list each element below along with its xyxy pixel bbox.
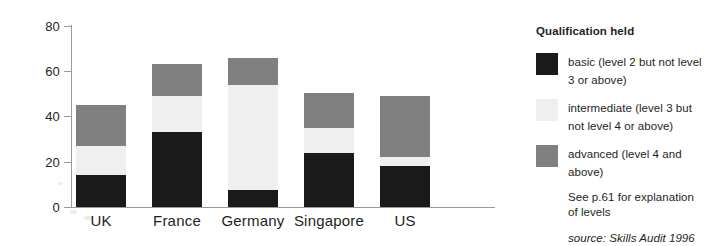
bar-segment-intermediate-uk — [76, 146, 126, 175]
y-tick-label-60: 60 — [26, 65, 60, 78]
legend-source: source: Skills Audit 1996 — [536, 231, 704, 246]
bar-segment-basic-singapore — [304, 153, 354, 207]
legend-item-basic: basic (level 2 but not level 3 or above) — [536, 52, 704, 88]
y-tick-40 — [64, 116, 72, 117]
bar-germany — [228, 26, 278, 207]
bar-segment-intermediate-singapore — [304, 128, 354, 153]
basic-swatch-icon — [536, 53, 558, 75]
legend-item-advanced: advanced (level 4 and above) — [536, 144, 704, 180]
bar-segment-advanced-singapore — [304, 93, 354, 128]
bar-us — [380, 26, 430, 207]
legend: Qualification held basic (level 2 but no… — [536, 24, 704, 246]
bar-segment-advanced-france — [152, 64, 202, 96]
bar-segment-advanced-germany — [228, 58, 278, 85]
bar-segment-intermediate-france — [152, 96, 202, 132]
legend-item-advanced-label: advanced (level 4 and above) — [568, 148, 682, 178]
y-tick-60 — [64, 71, 72, 72]
bar-segment-advanced-us — [380, 96, 430, 157]
bar-segment-intermediate-us — [380, 157, 430, 166]
legend-item-intermediate-label: intermediate (level 3 but not level 4 or… — [568, 102, 692, 132]
bar-segment-intermediate-germany — [228, 85, 278, 190]
bar-segment-advanced-uk — [76, 105, 126, 146]
legend-item-basic-label: basic (level 2 but not level 3 or above) — [568, 56, 702, 86]
y-tick-80 — [64, 26, 72, 27]
plot-area: 80 60 40 20 0 UK France Germany Singapor… — [0, 0, 515, 237]
y-tick-label-80: 80 — [26, 20, 60, 33]
bar-singapore — [304, 26, 354, 207]
legend-note: See p.61 for explanation of levels — [536, 190, 704, 219]
legend-item-intermediate: intermediate (level 3 but not level 4 or… — [536, 98, 704, 134]
bar-segment-basic-us — [380, 166, 430, 207]
scan-artifact — [58, 182, 63, 185]
legend-source-value: Skills Audit 1996 — [609, 232, 694, 244]
bar-uk — [76, 26, 126, 207]
y-tick-label-20: 20 — [26, 156, 60, 169]
legend-source-label: source: — [568, 232, 606, 244]
y-tick-label-40: 40 — [26, 110, 60, 123]
x-axis-label-us: US — [345, 211, 465, 231]
intermediate-swatch-icon — [536, 99, 558, 121]
bar-segment-basic-uk — [76, 175, 126, 207]
bar-france — [152, 26, 202, 207]
bar-segment-basic-france — [152, 132, 202, 207]
bar-segment-basic-germany — [228, 190, 278, 207]
legend-title: Qualification held — [536, 24, 704, 38]
y-tick-20 — [64, 162, 72, 163]
advanced-swatch-icon — [536, 145, 558, 167]
y-tick-0 — [64, 207, 72, 208]
x-axis-line — [71, 207, 495, 208]
